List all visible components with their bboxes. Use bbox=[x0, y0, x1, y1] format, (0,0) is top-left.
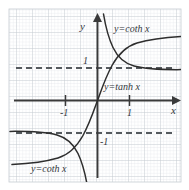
curve-label-tanh: y=tanh x bbox=[103, 81, 140, 92]
y-axis-label: y bbox=[79, 20, 85, 32]
graph-paper-grid bbox=[9, 9, 181, 182]
x-axis-label: x bbox=[170, 104, 176, 116]
graph-canvas: y x -1 1 1 -1 y=coth x y=tanh x y=coth x bbox=[0, 0, 189, 190]
curve-label-coth-upper: y=coth x bbox=[113, 23, 150, 34]
y-tick-label-minus-1: -1 bbox=[100, 136, 108, 147]
y-tick-label-plus-1: 1 bbox=[83, 55, 88, 66]
hyperbolic-functions-figure: y x -1 1 1 -1 y=coth x y=tanh x y=coth x bbox=[0, 0, 189, 190]
curve-label-coth-lower: y=coth x bbox=[30, 163, 67, 174]
x-tick-label-minus-1: -1 bbox=[60, 107, 68, 118]
x-tick-label-plus-1: 1 bbox=[127, 107, 132, 118]
